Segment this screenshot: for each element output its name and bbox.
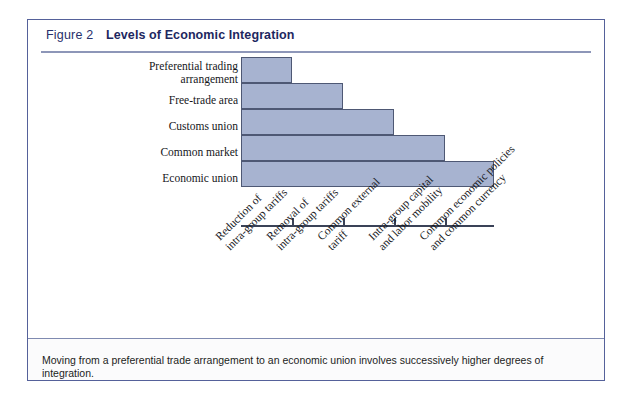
- bar-free-trade-area: [241, 83, 343, 109]
- category-label-line1: Preferential trading: [149, 60, 238, 72]
- header-divider: [41, 51, 591, 53]
- category-label-line2: arrangement: [181, 73, 238, 85]
- figure-frame: Figure 2 Levels of Economic Integration …: [27, 19, 605, 381]
- bar-common-market: [241, 135, 445, 161]
- category-label-free-trade-area: Free-trade area: [88, 94, 238, 107]
- caption-band: Moving from a preferential trade arrange…: [28, 338, 604, 380]
- category-label-economic-union: Economic union: [88, 172, 238, 185]
- bar-preferential-trading-arrangement: [241, 57, 292, 83]
- category-label-line1: Economic union: [162, 172, 238, 184]
- figure-caption: Moving from a preferential trade arrange…: [42, 354, 592, 380]
- category-label-line1: Common market: [160, 146, 238, 158]
- figure-header: Figure 2 Levels of Economic Integration: [28, 20, 604, 54]
- category-label-common-market: Common market: [88, 146, 238, 159]
- bar-customs-union: [241, 109, 394, 135]
- category-label-line1: Customs union: [169, 120, 238, 132]
- category-axis-labels: Preferential trading arrangement Free-tr…: [86, 54, 238, 194]
- category-label-preferential-trading-arrangement: Preferential trading arrangement: [88, 60, 238, 86]
- x-axis-labels: Reduction of intra-group tariffs Removal…: [28, 226, 604, 344]
- bar-chart: Preferential trading arrangement Free-tr…: [28, 54, 604, 344]
- category-label-line1: Free-trade area: [169, 94, 238, 106]
- figure-title: Levels of Economic Integration: [106, 28, 294, 42]
- figure-number-label: Figure 2: [46, 28, 93, 42]
- category-label-customs-union: Customs union: [88, 120, 238, 133]
